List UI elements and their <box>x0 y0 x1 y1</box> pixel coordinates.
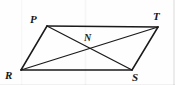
intersection-label-N: N <box>84 33 91 43</box>
vertex-label-P: P <box>30 14 37 25</box>
side-PT <box>47 26 158 27</box>
geometry-figure: P T S R N <box>0 0 175 85</box>
vertex-label-T: T <box>153 11 160 22</box>
vertex-label-S: S <box>132 72 138 83</box>
vertex-label-R: R <box>5 70 12 81</box>
